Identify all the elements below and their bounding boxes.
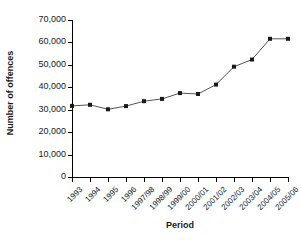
y-axis-tick	[68, 132, 72, 133]
y-axis-tick-label: 20,000	[16, 127, 66, 136]
x-axis-tick	[90, 178, 91, 182]
data-point	[142, 99, 146, 103]
data-point	[196, 92, 200, 96]
x-axis-tick	[108, 178, 109, 182]
data-point	[88, 103, 92, 107]
data-point	[106, 107, 110, 111]
y-axis-tick	[68, 65, 72, 66]
data-point	[232, 65, 236, 69]
y-axis-tick-label: 70,000	[16, 15, 66, 24]
y-axis-tick	[68, 42, 72, 43]
y-axis-tick	[68, 155, 72, 156]
data-point	[286, 37, 290, 41]
y-axis-tick-label: 50,000	[16, 60, 66, 69]
x-axis-tick	[234, 178, 235, 182]
x-axis-tick	[198, 178, 199, 182]
y-axis-tick-label: 30,000	[16, 105, 66, 114]
series-markers	[70, 37, 290, 112]
data-point	[70, 104, 74, 108]
chart-container: Number of offences 010,00020,00030,00040…	[0, 0, 301, 240]
x-axis-tick	[270, 178, 271, 182]
y-axis-tick-label: 10,000	[16, 150, 66, 159]
x-axis-tick	[144, 178, 145, 182]
series-line	[72, 39, 288, 110]
x-axis-tick	[180, 178, 181, 182]
y-axis-tick-label: 40,000	[16, 82, 66, 91]
plot-area	[72, 20, 288, 177]
x-axis-tick	[288, 178, 289, 182]
x-axis-tick	[252, 178, 253, 182]
data-series-offences	[72, 20, 288, 177]
x-axis-tick	[162, 178, 163, 182]
data-point	[214, 83, 218, 87]
y-axis-tick-label: 0	[16, 172, 66, 181]
y-axis-tick	[68, 87, 72, 88]
y-axis-title-label: Number of offences	[5, 50, 15, 135]
data-point	[160, 97, 164, 101]
y-axis-tick	[68, 20, 72, 21]
data-point	[124, 104, 128, 108]
x-axis-tick	[216, 178, 217, 182]
x-axis-tick	[72, 178, 73, 182]
data-point	[268, 37, 272, 41]
x-axis-title: Period	[72, 220, 288, 230]
y-axis-tick-label: 60,000	[16, 37, 66, 46]
data-point	[250, 58, 254, 62]
y-axis-tick	[68, 110, 72, 111]
data-point	[178, 91, 182, 95]
x-axis-tick	[126, 178, 127, 182]
